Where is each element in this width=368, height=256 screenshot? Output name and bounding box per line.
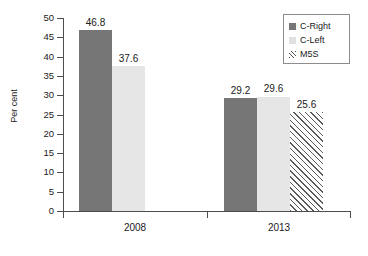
y-tick-label-20-wrap: 20	[21, 134, 54, 135]
legend-label-c-right: C-Right	[300, 22, 331, 31]
y-tick-label-25: 25	[24, 110, 54, 120]
bar-value-2013-m5s: 25.6	[280, 100, 333, 110]
bar-2013-c-left	[257, 97, 290, 211]
y-tick-label-0: 0	[24, 206, 54, 216]
bar-2008-c-left	[112, 66, 145, 211]
x-tick-separator	[207, 212, 208, 218]
legend-item-c-right[interactable]: C-Right	[289, 19, 349, 33]
y-axis-title-text: Per cent	[9, 89, 19, 123]
legend-label-c-left: C-Left	[300, 36, 325, 45]
x-category-label-2008: 2008	[63, 223, 207, 233]
y-tick-label-30-wrap: 30	[21, 95, 54, 96]
y-tick-label-50: 50	[24, 13, 54, 23]
chart-legend: C-Right C-Left M5S	[283, 14, 350, 64]
legend-label-m5s: M5S	[300, 50, 319, 59]
y-tick-label-20: 20	[24, 129, 54, 139]
bar-2013-c-right	[224, 98, 257, 211]
y-tick-label-40-wrap: 40	[21, 57, 54, 58]
bar-value-2013-c-left: 29.6	[247, 84, 300, 94]
x-tick-right-edge	[350, 212, 351, 218]
bar-chart: Per cent 50 45 40 35 30 25 20 15 10 5	[0, 0, 368, 256]
y-tick-label-45: 45	[24, 32, 54, 42]
x-category-label-2013: 2013	[207, 223, 351, 233]
legend-swatch-c-right-icon	[289, 23, 296, 30]
y-tick-label-50-wrap: 50	[21, 18, 54, 19]
bar-value-2008-c-right: 46.8	[69, 18, 122, 28]
bar-value-2008-c-left: 37.6	[102, 54, 155, 64]
y-tick-label-0-wrap: 0	[21, 211, 54, 212]
y-tick-label-15: 15	[24, 148, 54, 158]
y-tick-label-35: 35	[24, 71, 54, 81]
y-tick-label-15-wrap: 15	[21, 153, 54, 154]
y-tick-label-35-wrap: 35	[21, 76, 54, 77]
x-tick-left-edge	[63, 212, 64, 218]
y-axis-title: Per cent	[4, 0, 24, 211]
legend-swatch-c-left-icon	[289, 37, 296, 44]
y-tick-label-5: 5	[24, 187, 54, 197]
y-tick-label-10-wrap: 10	[21, 172, 54, 173]
y-tick-label-5-wrap: 5	[21, 192, 54, 193]
bar-2013-m5s	[290, 112, 323, 211]
y-tick-label-10: 10	[24, 167, 54, 177]
y-tick-label-40: 40	[24, 52, 54, 62]
legend-item-m5s[interactable]: M5S	[289, 47, 349, 61]
legend-item-c-left[interactable]: C-Left	[289, 33, 349, 47]
y-tick-label-25-wrap: 25	[21, 115, 54, 116]
y-tick-label-45-wrap: 45	[21, 37, 54, 38]
y-tick-label-30: 30	[24, 90, 54, 100]
legend-swatch-m5s-icon	[289, 51, 296, 58]
